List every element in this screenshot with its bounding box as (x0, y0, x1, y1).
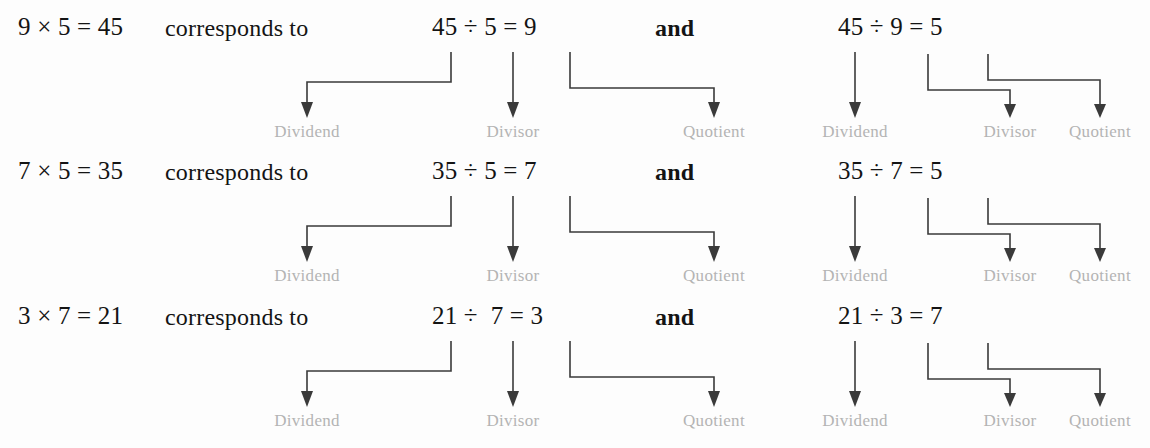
divisor-arrowhead-first (507, 391, 519, 407)
label-divisor-second: Divisor (983, 122, 1036, 142)
worksheet-canvas: 9 × 5 = 45 corresponds to 45 ÷ 5 = 9 and… (0, 0, 1150, 448)
dividend-arrowhead-first (301, 391, 313, 407)
label-dividend-first: Dividend (274, 122, 340, 142)
label-divisor-second: Divisor (983, 266, 1036, 286)
label-quotient-first: Quotient (683, 122, 745, 142)
divisor-connector-second (928, 343, 1010, 393)
equation-row: 3 × 7 = 21 corresponds to 21 ÷ 7 = 3 and… (0, 303, 1150, 448)
label-dividend-second: Dividend (822, 411, 888, 431)
label-strip: Dividend Divisor Quotient Dividend Divis… (0, 266, 1150, 290)
label-divisor-second: Divisor (983, 411, 1036, 431)
dividend-arrowhead-second (849, 391, 861, 407)
divisor-connector-second (928, 198, 1010, 248)
equation-row: 9 × 5 = 45 corresponds to 45 ÷ 5 = 9 and… (0, 14, 1150, 159)
label-quotient-second: Quotient (1069, 122, 1131, 142)
division-expression-second: 21 ÷ 3 = 7 (838, 303, 943, 328)
quotient-connector-second (988, 343, 1100, 393)
label-quotient-first: Quotient (683, 411, 745, 431)
division-expression-first: 21 ÷ 7 = 3 (432, 303, 543, 328)
quotient-arrowhead-second (1094, 393, 1106, 407)
quotient-arrowhead-second (1094, 248, 1106, 262)
dividend-arrowhead-second (849, 102, 861, 118)
quotient-arrowhead-first (708, 246, 720, 262)
corresponds-to-text: corresponds to (165, 16, 308, 40)
equation-row: 7 × 5 = 35 corresponds to 35 ÷ 5 = 7 and… (0, 158, 1150, 303)
divisor-arrowhead-second (1004, 248, 1016, 262)
label-divisor-first: Divisor (486, 411, 539, 431)
corresponds-to-text: corresponds to (165, 305, 308, 329)
multiplication-expression: 3 × 7 = 21 (18, 303, 123, 328)
label-strip: Dividend Divisor Quotient Dividend Divis… (0, 122, 1150, 146)
conjunction-text: and (655, 305, 694, 329)
divisor-arrowhead-first (507, 246, 519, 262)
conjunction-text: and (655, 16, 694, 40)
label-dividend-second: Dividend (822, 122, 888, 142)
quotient-arrowhead-first (708, 391, 720, 407)
dividend-connector-first (307, 196, 451, 246)
division-expression-first: 45 ÷ 5 = 9 (432, 14, 537, 39)
multiplication-expression: 7 × 5 = 35 (18, 158, 123, 183)
dividend-connector-first (307, 341, 451, 391)
quotient-connector-first (570, 196, 714, 246)
quotient-arrowhead-first (708, 102, 720, 118)
label-dividend-second: Dividend (822, 266, 888, 286)
quotient-connector-second (988, 54, 1100, 104)
divisor-arrowhead-second (1004, 104, 1016, 118)
label-quotient-second: Quotient (1069, 411, 1131, 431)
label-dividend-first: Dividend (274, 266, 340, 286)
label-dividend-first: Dividend (274, 411, 340, 431)
corresponds-to-text: corresponds to (165, 160, 308, 184)
divisor-arrowhead-second (1004, 393, 1016, 407)
label-divisor-first: Divisor (486, 122, 539, 142)
quotient-connector-first (570, 341, 714, 391)
divisor-connector-second (928, 54, 1010, 104)
conjunction-text: and (655, 160, 694, 184)
division-expression-second: 35 ÷ 7 = 5 (838, 158, 943, 183)
division-expression-second: 45 ÷ 9 = 5 (838, 14, 943, 39)
quotient-connector-first (570, 52, 714, 102)
dividend-connector-first (307, 52, 451, 102)
label-strip: Dividend Divisor Quotient Dividend Divis… (0, 411, 1150, 435)
label-quotient-second: Quotient (1069, 266, 1131, 286)
label-divisor-first: Divisor (486, 266, 539, 286)
dividend-arrowhead-first (301, 246, 313, 262)
dividend-arrowhead-second (849, 246, 861, 262)
divisor-arrowhead-first (507, 102, 519, 118)
quotient-connector-second (988, 198, 1100, 248)
dividend-arrowhead-first (301, 102, 313, 118)
division-expression-first: 35 ÷ 5 = 7 (432, 158, 537, 183)
label-quotient-first: Quotient (683, 266, 745, 286)
multiplication-expression: 9 × 5 = 45 (18, 14, 123, 39)
quotient-arrowhead-second (1094, 104, 1106, 118)
